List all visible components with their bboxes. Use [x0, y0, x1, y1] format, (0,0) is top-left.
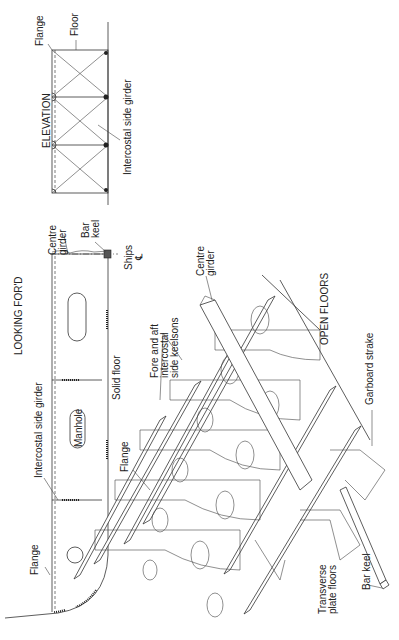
open-floors-title: OPEN FLOORS — [319, 272, 330, 345]
lightening-hole — [68, 293, 86, 341]
looking-ford-flange-label: Flange — [29, 544, 40, 575]
circular-hole — [67, 547, 83, 563]
side-girder-label: Intercostal side girder — [33, 382, 44, 478]
floor-block — [300, 510, 360, 560]
manhole-label: Manhole — [73, 408, 84, 447]
elevation-view: Flange Floor ELEVATION Intercostal side … — [34, 13, 133, 205]
transverse-label-2: plate floors — [327, 565, 338, 614]
looking-ford-title: LOOKING FOR'D — [13, 276, 24, 355]
leader-line — [95, 242, 106, 252]
leader-line — [48, 44, 52, 50]
leader-line — [44, 478, 58, 500]
ships-centreline-label-2: ℄ — [133, 253, 144, 261]
ship-floor-diagram: Flange Floor ELEVATION Intercostal side … — [0, 0, 399, 640]
elevation-brackets — [52, 51, 109, 193]
centre-girder-label-2: girder — [57, 229, 68, 255]
solid-floor-label: Solid floor — [111, 355, 122, 400]
fore-aft-label-3: side keelsons — [169, 317, 180, 378]
rivet-row — [76, 590, 96, 607]
leader-line — [45, 567, 50, 575]
open-flange-label: Flange — [119, 441, 130, 472]
elevation-flange-label: Flange — [34, 15, 45, 46]
looking-ford-view: Manhole LOOKING FOR'D Centre girder Bar … — [5, 220, 144, 618]
leader-line — [280, 560, 285, 580]
elevation-frame — [52, 50, 108, 193]
bar-keel-label: Bar keel — [361, 553, 372, 590]
leader-line — [98, 125, 120, 140]
elevation-side-girder-label: Intercostal side girder — [122, 79, 133, 175]
elevation-floor-label: Floor — [69, 13, 80, 36]
leader-line — [206, 276, 212, 300]
garboard-strake-label: Garboard strake — [364, 332, 375, 405]
open-centre-girder-label-2: girder — [205, 250, 216, 276]
elevation-title: ELEVATION — [41, 93, 52, 148]
open-floors-view: Fore and aft intercostal side keelsons C… — [74, 246, 389, 617]
bar-keel-label-2: keel — [90, 220, 101, 238]
